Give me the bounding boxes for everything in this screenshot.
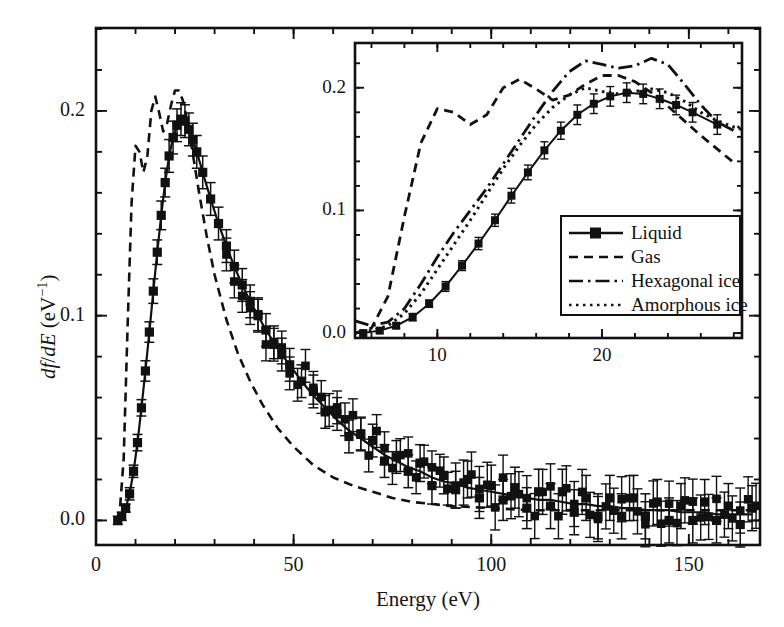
data-marker (728, 514, 737, 523)
data-marker (606, 92, 614, 100)
data-marker (341, 415, 350, 424)
data-marker (420, 457, 429, 466)
data-marker (222, 250, 231, 259)
data-marker (649, 499, 658, 508)
data-marker (538, 488, 547, 497)
data-marker (609, 506, 618, 515)
legend-label: Amorphous ice (631, 294, 748, 316)
figure-canvas: 0501001500.00.10.210200.00.10.2Energy (e… (0, 0, 784, 627)
data-marker (129, 467, 138, 476)
legend-label: Gas (631, 246, 661, 268)
data-marker (491, 503, 500, 512)
data-marker (198, 168, 207, 177)
data-marker (475, 485, 484, 494)
legend-item-liquid[interactable]: Liquid (568, 222, 682, 244)
x-axis-title: Energy (eV) (376, 587, 480, 612)
data-marker (344, 432, 353, 441)
data-marker (672, 101, 680, 109)
data-marker (656, 95, 664, 103)
data-marker (425, 300, 433, 308)
data-marker (145, 327, 154, 336)
data-marker (623, 89, 631, 97)
data-marker (546, 482, 555, 491)
data-marker (712, 495, 721, 504)
data-marker (214, 219, 223, 228)
data-marker (573, 111, 581, 119)
inset-ytick-label: 0.1 (322, 198, 346, 220)
data-marker (301, 362, 310, 371)
data-marker (285, 369, 294, 378)
data-marker (475, 240, 483, 248)
data-marker (689, 108, 697, 116)
data-marker (524, 168, 532, 176)
inset-xtick-label: 10 (428, 344, 447, 366)
data-marker (459, 478, 468, 487)
data-marker (121, 504, 130, 513)
data-marker (443, 484, 452, 493)
data-marker (270, 340, 279, 349)
data-marker (133, 438, 142, 447)
legend-item-amorphous-ice[interactable]: Amorphous ice (568, 294, 748, 316)
data-marker (639, 90, 647, 98)
data-marker (161, 178, 170, 187)
data-marker (149, 287, 158, 296)
data-marker (700, 497, 709, 506)
legend-label: Hexagonal ice (631, 270, 740, 292)
legend-item-hexagonal-ice[interactable]: Hexagonal ice (568, 270, 740, 292)
data-marker (364, 451, 373, 460)
data-marker (491, 216, 499, 224)
legend-label: Liquid (631, 222, 682, 244)
data-marker (409, 313, 417, 321)
main-ytick-label: 0.0 (60, 507, 85, 530)
data-marker (704, 513, 713, 522)
main-ytick-label: 0.1 (60, 303, 85, 326)
data-marker (540, 146, 548, 154)
legend-swatch-dashed (568, 250, 624, 264)
data-marker (404, 449, 413, 458)
data-marker (724, 501, 733, 510)
data-marker (570, 500, 579, 509)
main-xtick-label: 100 (476, 553, 506, 576)
main-xtick-label: 50 (284, 553, 304, 576)
data-marker (262, 340, 271, 349)
data-marker (451, 481, 460, 490)
data-marker (376, 327, 384, 335)
data-marker (499, 473, 508, 482)
data-marker (689, 497, 698, 506)
main-xtick-label: 0 (91, 553, 101, 576)
data-marker (349, 411, 358, 420)
data-marker (605, 493, 614, 502)
data-marker (157, 211, 166, 220)
inset-ytick-label: 0.0 (322, 321, 346, 343)
data-marker (396, 451, 405, 460)
data-marker (720, 510, 729, 519)
data-marker (238, 292, 247, 301)
data-marker (277, 343, 286, 352)
data-marker (458, 262, 466, 270)
legend-item-gas[interactable]: Gas (568, 246, 661, 268)
data-marker (309, 384, 318, 393)
data-marker (641, 520, 650, 529)
data-marker (467, 470, 476, 479)
data-marker (633, 507, 642, 516)
data-marker (436, 466, 445, 475)
data-marker (752, 501, 761, 510)
data-marker (230, 277, 239, 286)
data-marker (696, 513, 705, 522)
legend-swatch-solid-with-square-markers (568, 226, 624, 240)
data-marker (507, 192, 515, 200)
data-marker (141, 366, 150, 375)
main-ytick-label: 0.2 (60, 98, 85, 121)
data-marker (554, 512, 563, 521)
main-xtick-label: 150 (674, 553, 704, 576)
data-marker (590, 100, 598, 108)
data-marker (333, 403, 342, 412)
data-marker (523, 494, 532, 503)
data-marker (530, 512, 539, 521)
data-marker (357, 429, 366, 438)
data-marker (562, 484, 571, 493)
data-marker (557, 127, 565, 135)
data-marker (744, 495, 753, 504)
data-marker (681, 496, 690, 505)
legend-swatch-dotted (568, 298, 624, 312)
